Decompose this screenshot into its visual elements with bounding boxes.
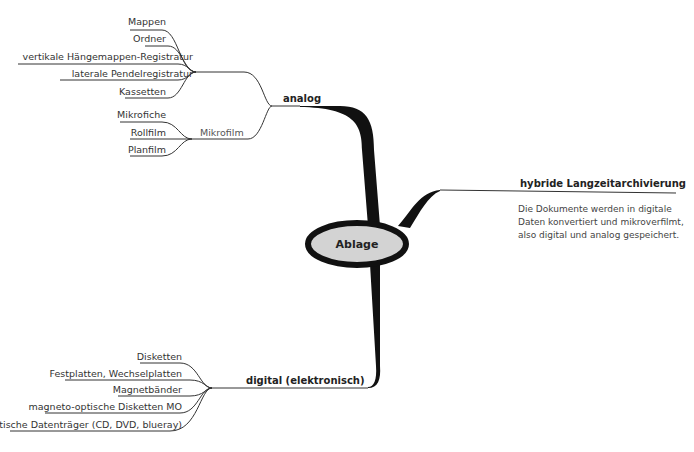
digital-item-mo: magneto-optische Disketten MO <box>29 401 182 413</box>
mikrofilm-item-mikrofiche: Mikrofiche <box>117 109 166 121</box>
digital-item-disketten: Disketten <box>137 351 182 363</box>
center-node-label: Ablage <box>319 238 395 251</box>
analog-item-laterale: laterale Pendelregistratur <box>72 68 193 80</box>
hybrid-desc-line-1: Die Dokumente werden in digitale <box>518 203 684 216</box>
analog-item-mappen: Mappen <box>128 16 166 28</box>
analog-item-vertikale: vertikale Hängemappen-Registratur <box>23 51 193 63</box>
analog-node: analog <box>283 93 321 105</box>
digital-item-optisch: optische Datenträger (CD, DVD, blueray) <box>0 419 182 431</box>
digital-item-festplatten: Festplatten, Wechselplatten <box>50 368 182 380</box>
hybrid-desc-line-2: Daten konvertiert und mikroverfilmt, <box>518 216 684 229</box>
analog-item-kassetten: Kassetten <box>119 86 166 98</box>
mikrofilm-item-planfilm: Planfilm <box>128 144 166 156</box>
hybrid-description: Die Dokumente werden in digitale Daten k… <box>518 203 684 242</box>
hybrid-desc-line-3: also digital und analog gespeichert. <box>518 229 684 242</box>
hybrid-node: hybride Langzeitarchivierung <box>520 178 686 190</box>
mikrofilm-item-rollfilm: Rollfilm <box>131 127 166 139</box>
analog-item-ordner: Ordner <box>133 33 166 45</box>
mikrofilm-node: Mikrofilm <box>200 127 244 139</box>
digital-item-magnetbaender: Magnetbänder <box>113 384 182 396</box>
digital-node: digital (elektronisch) <box>246 375 365 387</box>
